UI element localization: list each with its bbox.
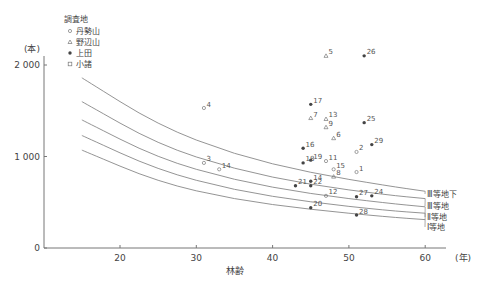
x-axis-unit: (年) — [455, 252, 471, 263]
curve-label: Ⅰ等地 — [427, 222, 445, 232]
x-tick-label: 50 — [343, 253, 355, 263]
curve-label: Ⅱ等地 — [427, 212, 447, 222]
legend-entry: 丹勢山 — [76, 26, 100, 36]
point-label: 21 — [298, 178, 307, 186]
legend-entry: 小諸 — [76, 59, 92, 69]
point-label: 13 — [329, 111, 338, 119]
point-label: 12 — [329, 188, 338, 196]
triangle-marker — [324, 117, 328, 121]
y-tick-label: 2 000 — [14, 60, 40, 70]
dot-marker — [301, 161, 304, 164]
x-tick-label: 20 — [114, 253, 126, 263]
point-label: 9 — [329, 120, 333, 128]
dot-marker — [309, 180, 312, 183]
circle-marker — [324, 159, 327, 162]
circle-marker — [68, 29, 71, 32]
dot-marker — [309, 184, 312, 187]
point-label: 19 — [313, 153, 322, 161]
point-label: 25 — [367, 115, 376, 123]
point-label: 3 — [206, 155, 210, 163]
point-label: 14 — [222, 162, 231, 170]
dot-marker — [309, 206, 312, 209]
point-label: 2 — [359, 144, 363, 152]
point-label: 7 — [313, 111, 317, 119]
square-marker — [68, 62, 72, 66]
dot-marker — [355, 213, 358, 216]
legend-title: 調査地 — [64, 14, 88, 24]
legend-entry: 上田 — [76, 49, 92, 58]
point-label: 16 — [306, 141, 315, 149]
circle-marker — [218, 168, 221, 171]
triangle-marker — [309, 116, 313, 120]
triangle-marker — [324, 54, 328, 58]
y-tick-label: 0 — [34, 243, 40, 253]
point-label: 6 — [336, 131, 341, 139]
point-label: 8 — [336, 169, 340, 177]
point-label: 27 — [359, 189, 368, 197]
dot-marker — [362, 121, 365, 124]
circle-marker — [202, 106, 205, 109]
curve-label: Ⅲ等地下 — [427, 189, 457, 199]
dot-marker — [370, 194, 373, 197]
dot-marker — [362, 54, 365, 57]
scatter-chart: 203040506001 0002 000(本)(年)林齢調査地丹勢山野辺山上田… — [0, 0, 480, 283]
circle-marker — [355, 150, 358, 153]
x-tick-label: 40 — [267, 253, 279, 263]
x-axis-label: 林齢 — [226, 265, 244, 276]
point-label: 24 — [374, 188, 383, 196]
point-label: 20 — [313, 200, 322, 208]
curve-label: Ⅲ等地 — [427, 201, 449, 211]
y-tick-label: 1 000 — [14, 152, 40, 162]
dot-marker — [68, 51, 71, 54]
y-axis-unit: (本) — [24, 43, 40, 54]
triangle-marker — [332, 136, 336, 140]
dot-marker — [294, 184, 297, 187]
triangle-marker — [324, 125, 328, 129]
point-label: 28 — [359, 208, 368, 216]
x-tick-label: 30 — [191, 253, 203, 263]
point-label: 26 — [367, 48, 376, 56]
legend-entry: 野辺山 — [76, 37, 100, 47]
point-label: 18 — [306, 155, 315, 163]
circle-marker — [355, 170, 358, 173]
point-label: 5 — [329, 48, 333, 56]
dot-marker — [301, 147, 304, 150]
x-tick-label: 60 — [419, 253, 431, 263]
circle-marker — [332, 168, 335, 171]
point-label: 29 — [374, 137, 383, 145]
dot-marker — [355, 195, 358, 198]
point-label: 1 — [359, 165, 363, 173]
circle-marker — [202, 161, 205, 164]
point-label: 4 — [206, 101, 211, 109]
dot-marker — [370, 143, 373, 146]
curve-line — [82, 78, 425, 191]
point-label: 17 — [313, 97, 322, 105]
point-label: 22 — [313, 178, 322, 186]
triangle-marker — [68, 40, 72, 44]
point-label: 11 — [329, 154, 338, 162]
chart-container: 203040506001 0002 000(本)(年)林齢調査地丹勢山野辺山上田… — [0, 0, 480, 283]
dot-marker — [309, 103, 312, 106]
